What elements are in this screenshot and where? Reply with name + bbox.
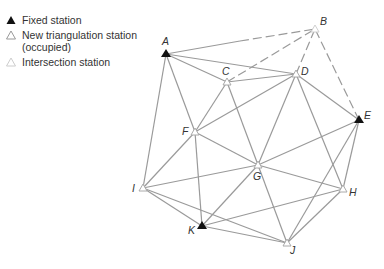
- edge-F-K: [195, 132, 202, 226]
- station-label-G: G: [253, 170, 261, 182]
- edge-C-G: [227, 82, 258, 165]
- intersection-station-icon-B: [311, 25, 319, 32]
- station-label-B: B: [320, 15, 327, 27]
- station-label-H: H: [349, 186, 357, 198]
- new-station-icon-F: [191, 128, 199, 135]
- edge-I-J: [143, 188, 287, 243]
- station-label-F: F: [182, 125, 189, 137]
- network-edges: [143, 29, 359, 243]
- station-labels: A B C D E F G H I J K: [132, 15, 372, 256]
- edge-E-B: [315, 29, 359, 120]
- fixed-station-icon-E: [354, 115, 364, 123]
- edge-A-I: [143, 54, 166, 188]
- station-label-I: I: [132, 182, 135, 194]
- edge-E-J: [287, 120, 359, 243]
- edge-D-G: [258, 74, 296, 165]
- station-label-C: C: [222, 65, 230, 77]
- edge-E-H: [343, 120, 359, 189]
- edge-F-G: [195, 132, 258, 165]
- edge-C-D: [227, 74, 296, 82]
- station-label-E: E: [364, 109, 372, 121]
- edge-C-F: [195, 82, 227, 132]
- edge-D-F: [195, 74, 296, 132]
- edge-H-J: [287, 189, 343, 243]
- triangulation-network: A B C D E F G H I J K: [0, 0, 384, 269]
- edge-G-J: [258, 165, 287, 243]
- edge-E-G: [258, 120, 359, 165]
- edge-A-B-dashed: [240, 29, 315, 41]
- station-label-A: A: [161, 35, 169, 47]
- edge-A-D: [166, 54, 296, 74]
- new-station-icon-G: [254, 161, 262, 168]
- station-label-J: J: [289, 244, 296, 256]
- station-label-K: K: [188, 224, 196, 236]
- edge-A-B-solid: [166, 41, 240, 54]
- edge-K-J: [202, 226, 287, 243]
- edge-K-H: [202, 189, 343, 226]
- station-label-D: D: [301, 65, 309, 77]
